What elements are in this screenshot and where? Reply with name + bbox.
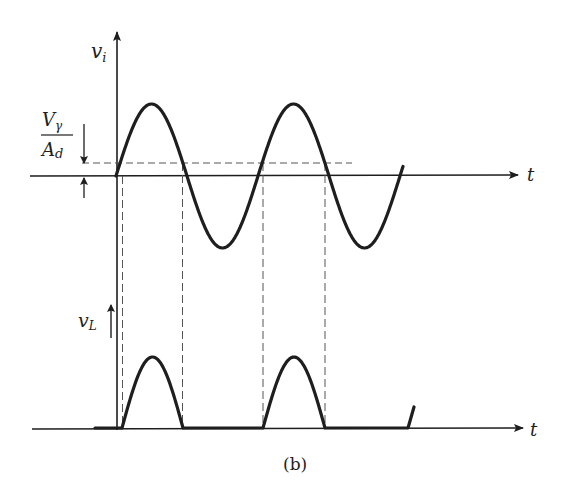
threshold-fraction-label: Vγ Ad [40, 109, 73, 161]
vi-axis-label: vi [91, 39, 106, 65]
output-rectified-waveform [95, 357, 414, 428]
fraction-denominator: Ad [40, 139, 63, 161]
figure-caption: (b) [283, 454, 307, 474]
top-t-label: t [527, 164, 535, 185]
bottom-t-label: t [530, 419, 538, 440]
fraction-numerator: Vγ [42, 109, 63, 133]
top-time-axis [30, 175, 518, 176]
vl-axis-label: vL [78, 309, 97, 333]
waveform-figure: vi t Vγ Ad vL t (b) [0, 0, 568, 492]
projection-lines [123, 163, 326, 428]
